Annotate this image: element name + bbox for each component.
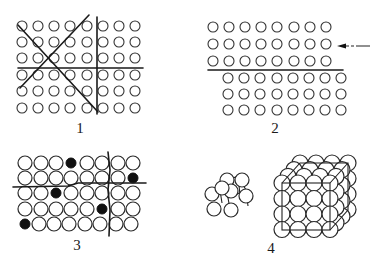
atom [49,70,59,80]
atom [223,89,233,99]
atom [130,53,140,63]
atom [336,89,346,99]
atom [289,22,299,32]
atom [289,56,299,66]
atom [82,86,92,96]
atom [130,21,140,31]
panel-label-2: 2 [271,120,279,136]
atom [239,89,249,99]
atom [78,217,92,231]
atom [65,103,75,113]
atom [240,56,250,66]
atom [130,103,140,113]
atom [114,21,124,31]
arrow-left-icon [337,44,346,49]
atom [305,39,315,49]
impurity-atom [51,188,61,198]
atom [65,53,75,63]
atom [109,217,123,231]
atom [98,103,108,113]
atom [34,156,48,170]
atom [95,156,109,170]
crystal-atom [306,191,322,207]
atom [223,105,233,115]
atom [124,217,138,231]
crystal-atom [290,206,306,222]
atom [49,171,63,185]
panel-label-4: 4 [267,240,275,256]
atom [304,89,314,99]
figure-canvas: 1 2 3 4 [0,0,382,266]
atom [80,156,94,170]
atom [111,202,125,216]
atom [224,22,234,32]
atom [95,186,109,200]
atom [82,53,92,63]
crystal-atom [290,191,306,207]
atom [32,217,46,231]
atom [208,56,218,66]
impurity-atom [20,219,30,229]
atom [49,103,59,113]
atom [239,73,249,83]
atom [321,56,331,66]
atom [114,70,124,80]
atom [65,21,75,31]
atom [34,186,48,200]
atom [126,156,140,170]
atom [111,156,125,170]
crystal-lattice-diagram: 1 2 3 4 [0,0,382,266]
atom [49,37,59,47]
atom [223,73,233,83]
atom [208,22,218,32]
atom [305,56,315,66]
atom [62,217,76,231]
atom [126,202,140,216]
atom [18,156,32,170]
atom [64,186,78,200]
atom [80,202,94,216]
atom [288,105,298,115]
atom [82,21,92,31]
atom [288,73,298,83]
atom [17,86,27,96]
atom [321,39,331,49]
unit-cell-atom [224,203,238,217]
impurity-atom [128,173,138,183]
atom [49,86,59,96]
atom [256,56,266,66]
atom [305,22,315,32]
atom [272,39,282,49]
atom [255,89,265,99]
unit-cell-atom [235,173,249,187]
unit-cell-atom [207,202,221,216]
panel-4-cubic-crystal [205,155,356,238]
atom [34,202,48,216]
atom [320,73,330,83]
atom [130,37,140,47]
crystal-atom [306,206,322,222]
atom [239,105,249,115]
panel-label-1: 1 [76,120,84,136]
atom [272,73,282,83]
atom [93,217,107,231]
atom [114,103,124,113]
atom [82,37,92,47]
atom [336,73,346,83]
atom [33,53,43,63]
atom [65,86,75,96]
panel-1-slip-planes [17,15,143,114]
atom [17,103,27,113]
atom [49,21,59,31]
atom [288,89,298,99]
atom [64,202,78,216]
panel-label-3: 3 [73,237,81,253]
atom [240,39,250,49]
atom [18,171,32,185]
atom [98,37,108,47]
atom [82,70,92,80]
panel-3-impurity-atoms [13,152,146,236]
atom [47,217,61,231]
atom [49,156,63,170]
atom [114,37,124,47]
